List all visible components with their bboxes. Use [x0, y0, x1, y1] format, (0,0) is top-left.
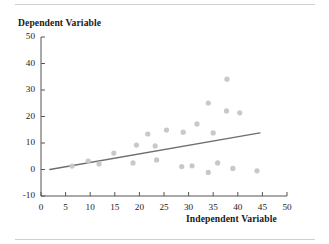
tick-marks [41, 37, 287, 196]
y-tick-label: 20 [11, 111, 35, 121]
y-tick-label: 50 [11, 31, 35, 41]
data-point [211, 130, 216, 135]
data-point [237, 110, 242, 115]
data-point [230, 166, 235, 171]
data-point-markers [69, 77, 259, 175]
data-point [224, 77, 229, 82]
data-point [153, 143, 158, 148]
data-point [194, 121, 199, 126]
data-point [179, 164, 184, 169]
data-point [206, 170, 211, 175]
x-tick-label: 40 [226, 202, 250, 212]
x-tick-label: 35 [201, 202, 225, 212]
data-point [206, 100, 211, 105]
x-tick-label: 45 [250, 202, 274, 212]
x-tick-label: 25 [152, 202, 176, 212]
data-point [164, 127, 169, 132]
data-point [181, 130, 186, 135]
x-tick-label: 20 [127, 202, 151, 212]
regression-trendline [50, 133, 260, 170]
data-point [254, 168, 259, 173]
x-tick-label: 0 [29, 202, 53, 212]
data-point [69, 163, 74, 168]
data-point [111, 150, 116, 155]
x-tick-label: 15 [103, 202, 127, 212]
data-point [130, 160, 135, 165]
data-point [189, 163, 194, 168]
data-point [215, 160, 220, 165]
data-point [145, 131, 150, 136]
data-point [154, 157, 159, 162]
scatter-plot-figure: Dependent Variable Independent Variable … [0, 0, 329, 244]
axis-lines [41, 37, 287, 196]
y-tick-label: 40 [11, 58, 35, 68]
x-tick-label: 30 [177, 202, 201, 212]
y-tick-label: 10 [11, 137, 35, 147]
y-tick-label: -10 [11, 190, 35, 200]
data-point [86, 158, 91, 163]
data-point [134, 143, 139, 148]
y-tick-label: 30 [11, 84, 35, 94]
x-tick-label: 5 [54, 202, 78, 212]
y-tick-label: 0 [11, 164, 35, 174]
x-tick-label: 10 [78, 202, 102, 212]
x-tick-label: 50 [275, 202, 299, 212]
data-point [96, 161, 101, 166]
data-point [224, 108, 229, 113]
